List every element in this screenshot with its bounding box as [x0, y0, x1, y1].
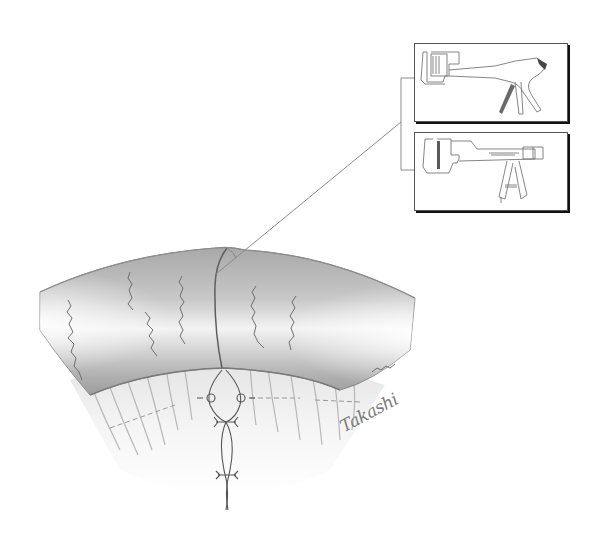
- inset-linear-cutter: Linear cutting stapler (long shaft): [414, 132, 568, 211]
- inset-linear-stapler: Linear stapler (pistol-grip): [414, 43, 568, 122]
- surgical-figure: Linear stapler (pistol-grip) Linear cutt…: [0, 0, 593, 546]
- callout-leader: [216, 78, 414, 274]
- linear-stapler-icon: [415, 44, 567, 121]
- linear-cutter-stapler-icon: [415, 133, 567, 210]
